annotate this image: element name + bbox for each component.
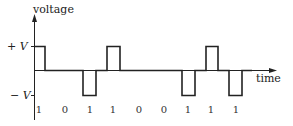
y-axis-label: voltage [33, 4, 74, 15]
bit-label: 1 [185, 105, 191, 115]
minus-v-label: − V [10, 90, 31, 101]
bit-label: 0 [136, 105, 142, 115]
bit-label: 1 [208, 105, 214, 115]
bit-label: 1 [233, 105, 239, 115]
bit-label: 1 [36, 105, 42, 115]
plus-v-label: + V [7, 41, 28, 52]
waveform-signal [35, 47, 253, 96]
bit-label: 1 [87, 105, 93, 115]
waveform-diagram [0, 0, 293, 126]
bit-label: 1 [110, 105, 116, 115]
bit-label: 0 [62, 105, 68, 115]
x-axis-label: time [256, 73, 281, 84]
bit-label: 0 [161, 105, 167, 115]
